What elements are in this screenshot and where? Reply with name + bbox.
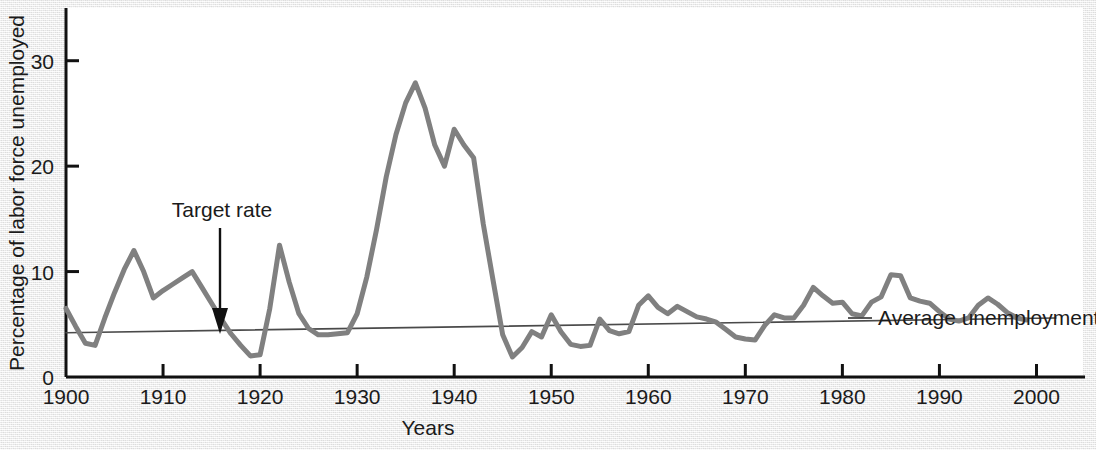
x-tick-label-1900: 1900 (43, 385, 90, 408)
target-rate-annotation: Target rate (172, 198, 272, 334)
x-axis-ticks (163, 364, 1036, 377)
y-tick-label-30: 30 (31, 50, 54, 73)
average-unemployment-legend: Average unemployment (848, 306, 1096, 329)
x-tick-label-1940: 1940 (431, 385, 478, 408)
x-tick-label-2000: 2000 (1013, 385, 1060, 408)
x-tick-label-1910: 1910 (140, 385, 187, 408)
x-axis-tick-labels: 1900191019201930194019501960197019801990… (43, 385, 1060, 408)
x-tick-label-1920: 1920 (237, 385, 284, 408)
x-tick-label-1950: 1950 (528, 385, 575, 408)
unemployment-line-chart: 0102030 19001910192019301940195019601970… (0, 0, 1096, 450)
x-tick-label-1990: 1990 (916, 385, 963, 408)
x-tick-label-1960: 1960 (625, 385, 672, 408)
y-tick-label-10: 10 (31, 261, 54, 284)
y-tick-label-20: 20 (31, 155, 54, 178)
y-axis-tick-labels: 0102030 (31, 50, 54, 389)
x-tick-label-1970: 1970 (722, 385, 769, 408)
chart-canvas: 0102030 19001910192019301940195019601970… (0, 0, 1096, 450)
target-rate-label: Target rate (172, 198, 272, 221)
average-unemployment-label: Average unemployment (878, 306, 1096, 329)
x-axis-title: Years (402, 416, 455, 439)
x-tick-label-1930: 1930 (334, 385, 381, 408)
y-axis-title: Percentage of labor force unemployed (5, 15, 28, 371)
x-tick-label-1980: 1980 (819, 385, 866, 408)
y-axis-ticks (66, 61, 79, 272)
